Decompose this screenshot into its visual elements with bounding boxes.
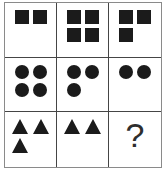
triangle-icon	[12, 138, 28, 153]
slot-top-right	[33, 65, 47, 79]
slot-top-right	[85, 10, 99, 24]
slot-bottom-left	[64, 138, 81, 153]
triangle-icon	[85, 119, 101, 134]
circle-icon	[67, 83, 81, 97]
matrix-cell-r1c2	[57, 3, 109, 58]
matrix-cell-r2c2	[57, 58, 109, 113]
circle-icon	[15, 83, 29, 97]
square-icon	[67, 28, 81, 42]
slot-top-left	[15, 10, 29, 24]
circle-icon	[85, 65, 99, 79]
triangle-group	[64, 119, 102, 153]
slot-bottom-right	[85, 138, 102, 153]
slot-bottom-right	[33, 83, 47, 97]
circle-icon	[137, 65, 151, 79]
square-icon	[119, 10, 133, 24]
slot-top-right	[33, 119, 50, 134]
square-group	[67, 10, 99, 42]
slot-bottom-right	[33, 28, 47, 42]
slot-top-left	[119, 65, 133, 79]
question-mark: ?	[126, 117, 145, 153]
slot-bottom-left	[15, 28, 29, 42]
slot-top-left	[67, 65, 81, 79]
circle-icon	[33, 83, 47, 97]
slot-top-left	[67, 10, 81, 24]
circle-group	[15, 65, 47, 97]
matrix-cell-r1c1	[5, 3, 57, 58]
slot-top-left	[12, 119, 29, 134]
slot-bottom-left	[15, 83, 29, 97]
slot-top-right	[85, 65, 99, 79]
slot-bottom-right	[85, 28, 99, 42]
slot-top-right	[85, 119, 102, 134]
slot-top-left	[64, 119, 81, 134]
slot-bottom-left	[119, 83, 133, 97]
slot-bottom-left	[119, 28, 133, 42]
slot-bottom-right	[85, 83, 99, 97]
slot-bottom-right	[33, 138, 50, 153]
puzzle-canvas: ?	[0, 0, 167, 174]
matrix-cell-r3c3: ?	[109, 112, 161, 167]
square-group	[15, 10, 47, 42]
slot-top-left	[15, 65, 29, 79]
square-icon	[67, 10, 81, 24]
square-icon	[15, 10, 29, 24]
circle-group	[119, 65, 151, 97]
square-icon	[33, 10, 47, 24]
slot-top-right	[33, 10, 47, 24]
square-group	[119, 10, 151, 42]
matrix-cell-r3c1	[5, 112, 57, 167]
slot-bottom-right	[137, 83, 151, 97]
slot-bottom-left	[67, 28, 81, 42]
triangle-icon	[12, 119, 28, 134]
slot-bottom-left	[67, 83, 81, 97]
square-icon	[85, 10, 99, 24]
matrix-grid: ?	[4, 2, 162, 168]
circle-group	[67, 65, 99, 97]
matrix-cell-r2c3	[109, 58, 161, 113]
slot-bottom-left	[12, 138, 29, 153]
triangle-icon	[64, 119, 80, 134]
circle-icon	[33, 65, 47, 79]
square-icon	[85, 28, 99, 42]
matrix-cell-r1c3	[109, 3, 161, 58]
slot-bottom-right	[137, 28, 151, 42]
slot-top-right	[137, 10, 151, 24]
circle-icon	[15, 65, 29, 79]
triangle-icon	[33, 119, 49, 134]
circle-icon	[119, 65, 133, 79]
circle-icon	[67, 65, 81, 79]
matrix-cell-r2c1	[5, 58, 57, 113]
slot-top-left	[119, 10, 133, 24]
slot-top-right	[137, 65, 151, 79]
triangle-group	[12, 119, 50, 153]
square-icon	[137, 10, 151, 24]
square-icon	[119, 28, 133, 42]
matrix-cell-r3c2	[57, 112, 109, 167]
